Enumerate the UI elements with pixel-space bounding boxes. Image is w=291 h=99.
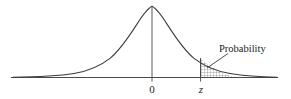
- mean-tick-label: 0: [149, 83, 155, 95]
- probability-annotation-label: Probability: [219, 43, 266, 54]
- distribution-chart-svg: 0 z Probability: [0, 0, 291, 99]
- probability-leader-line: [207, 54, 228, 69]
- bell-curve-path: [13, 6, 277, 77]
- normal-distribution-figure: 0 z Probability: [0, 0, 291, 99]
- z-tick-label: z: [198, 83, 204, 95]
